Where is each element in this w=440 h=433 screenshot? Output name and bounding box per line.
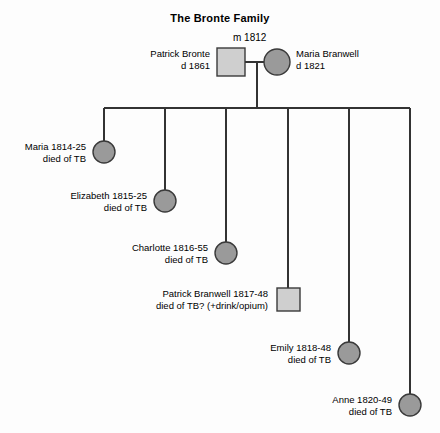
marriage-label: m 1812 [233, 32, 266, 43]
label-father-dates: d 1861 [118, 60, 210, 72]
label-child-maria-name: Maria 1814-25 [0, 141, 86, 153]
label-child-elizabeth: Elizabeth 1815-25 died of TB [30, 190, 147, 214]
label-child-branwell-name: Patrick Branwell 1817-48 [108, 288, 268, 300]
label-father: Patrick Bronte d 1861 [118, 48, 210, 72]
label-child-branwell-cause: died of TB? (+drink/opium) [108, 300, 268, 312]
label-child-branwell: Patrick Branwell 1817-48 died of TB? (+d… [108, 288, 268, 312]
label-child-anne-cause: died of TB [300, 406, 392, 418]
label-child-anne-name: Anne 1820-49 [300, 394, 392, 406]
label-child-elizabeth-cause: died of TB [30, 202, 147, 214]
node-child-anne [399, 394, 421, 416]
label-child-charlotte: Charlotte 1816-55 died of TB [90, 242, 208, 266]
label-child-emily-cause: died of TB [238, 354, 331, 366]
node-child-emily [338, 342, 360, 364]
node-child-maria [93, 141, 115, 163]
label-mother-dates: d 1821 [296, 60, 406, 72]
label-child-emily-name: Emily 1818-48 [238, 342, 331, 354]
label-child-elizabeth-name: Elizabeth 1815-25 [30, 190, 147, 202]
label-child-maria-cause: died of TB [0, 153, 86, 165]
node-father-square [217, 48, 245, 76]
family-tree-diagram: The Bronte Family m 1812 Patrick Bronte … [0, 0, 440, 433]
label-mother-name: Maria Branwell [296, 48, 406, 60]
label-child-anne: Anne 1820-49 died of TB [300, 394, 392, 418]
node-mother-circle [264, 49, 290, 75]
node-child-elizabeth [154, 190, 176, 212]
label-mother: Maria Branwell d 1821 [296, 48, 406, 72]
diagram-title: The Bronte Family [0, 12, 440, 24]
label-child-maria: Maria 1814-25 died of TB [0, 141, 86, 165]
label-child-emily: Emily 1818-48 died of TB [238, 342, 331, 366]
label-father-name: Patrick Bronte [118, 48, 210, 60]
node-child-charlotte [215, 242, 237, 264]
label-child-charlotte-cause: died of TB [90, 254, 208, 266]
label-child-charlotte-name: Charlotte 1816-55 [90, 242, 208, 254]
node-child-branwell [277, 288, 300, 311]
